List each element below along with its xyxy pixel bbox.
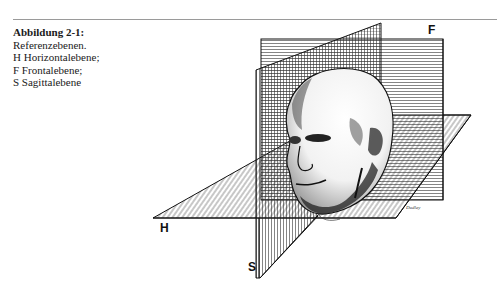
- label-sagittal-plane: S: [248, 260, 256, 274]
- label-frontal-plane: F: [428, 23, 435, 37]
- artist-signature: Dudley: [405, 205, 421, 210]
- reference-planes-illustration: F H S Dudley: [0, 0, 502, 298]
- label-horizontal-plane: H: [160, 221, 169, 235]
